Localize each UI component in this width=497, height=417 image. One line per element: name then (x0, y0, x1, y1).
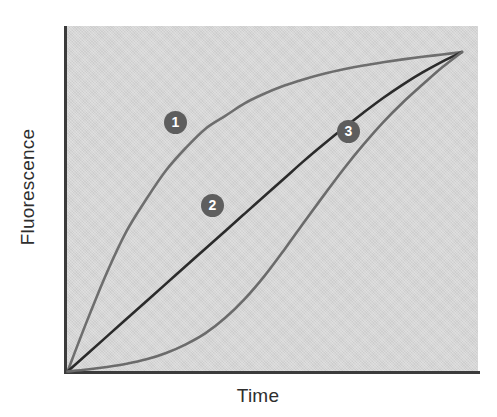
curve-series-3 (68, 52, 463, 372)
y-axis-label: Fluorescence (17, 97, 39, 277)
series-badge-1: 1 (164, 111, 187, 134)
fluorescence-time-chart: Fluorescence Time 1 2 3 (0, 0, 497, 417)
curve-layer (0, 0, 497, 417)
series-badge-3: 3 (337, 120, 360, 143)
x-axis-label: Time (0, 385, 497, 407)
curve-series-2 (68, 52, 463, 372)
series-badge-2: 2 (201, 194, 224, 217)
curve-series-1 (68, 52, 463, 372)
